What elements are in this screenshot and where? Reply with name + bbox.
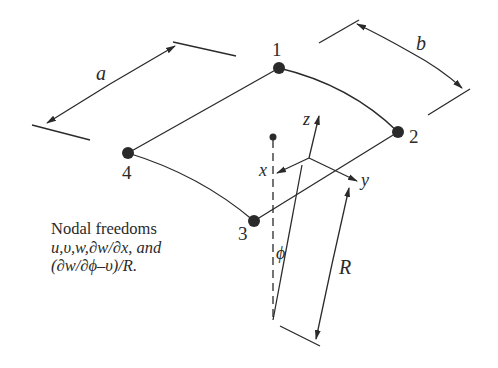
node-1-marker: [273, 62, 285, 74]
dim-b-arrow-2: [357, 24, 410, 52]
caption-line-1: Nodal freedoms: [51, 220, 161, 239]
dim-b-label: b: [416, 33, 426, 53]
dim-r-label: R: [339, 257, 351, 277]
dim-b-extension-right: [428, 89, 470, 115]
x-axis-label: x: [259, 161, 267, 179]
y-axis-label: y: [361, 171, 369, 189]
x-axis: [277, 158, 309, 173]
dim-a-extension-right: [173, 42, 236, 56]
phi-angle-label: ϕ: [276, 244, 285, 262]
diagram-drawing: [0, 0, 498, 368]
node-2-label: 2: [409, 127, 419, 146]
nodal-freedoms-caption: Nodal freedoms u,υ,w,∂w/∂x, and (∂w/∂ϕ–υ…: [51, 220, 161, 276]
caption-line-2: u,υ,w,∂w/∂x, and: [51, 239, 161, 258]
edge-2-3: [254, 132, 398, 221]
caption-line-2-text: u,υ,w,∂w/∂x, and: [51, 238, 161, 257]
node-2-marker: [392, 126, 404, 138]
dim-r-arrow: [332, 188, 349, 264]
node-1-label: 1: [272, 40, 282, 59]
dim-a-label: a: [96, 63, 106, 83]
dim-b-extension-left: [319, 20, 359, 43]
node-4-label: 4: [122, 163, 132, 182]
center-point: [270, 134, 277, 141]
dim-r-arrow-2: [316, 264, 332, 339]
shell-element-diagram: 1 2 3 4 a b R z x y ϕ Nodal freedoms u,υ…: [0, 0, 498, 368]
node-3-label: 3: [238, 224, 248, 243]
caption-line-3: (∂w/∂ϕ–υ)/R.: [51, 257, 161, 276]
dim-a-arrow: [110, 46, 175, 84]
z-axis: [309, 116, 319, 158]
z-axis-label: z: [303, 110, 310, 128]
caption-line-3-text: (∂w/∂ϕ–υ)/R.: [51, 256, 137, 275]
dim-a-extension-left: [32, 125, 90, 140]
edge-4-3: [128, 153, 254, 221]
node-4-marker: [122, 147, 134, 159]
dim-r-extension: [280, 326, 320, 346]
node-3-marker: [248, 215, 260, 227]
edge-1-2: [279, 68, 398, 132]
dim-a-arrow-2: [47, 84, 110, 123]
dim-b-arrow: [410, 52, 462, 88]
edge-4-1: [128, 68, 279, 153]
